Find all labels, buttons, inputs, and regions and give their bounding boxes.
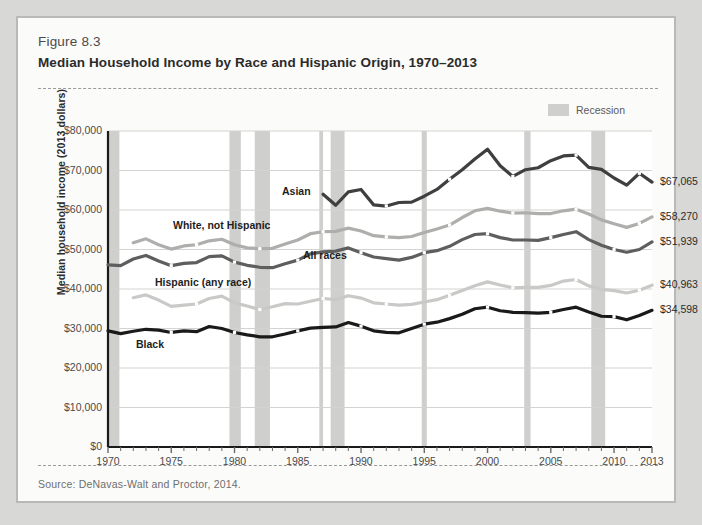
series-label-all-races: All races — [303, 249, 347, 261]
end-value-label: $34,598 — [660, 303, 698, 315]
chart-plot-area: Median household income (2013 dollars) $… — [18, 18, 678, 505]
series-label-white-not-hispanic: White, not Hispanic — [173, 219, 270, 231]
end-value-label: $58,270 — [660, 210, 698, 222]
end-value-label: $40,963 — [660, 278, 698, 290]
end-value-label: $67,065 — [660, 175, 698, 187]
y-tick-label: $70,000 — [46, 164, 102, 176]
y-tick-label: $20,000 — [46, 361, 102, 373]
y-tick-label: $80,000 — [46, 124, 102, 136]
series-label-hispanic-any-race: Hispanic (any race) — [155, 276, 251, 288]
y-tick-label: $30,000 — [46, 322, 102, 334]
figure-card: Figure 8.3 Median Household Income by Ra… — [16, 16, 676, 503]
y-axis-title: Median household income (2013 dollars) — [55, 77, 67, 307]
y-tick-label: $40,000 — [46, 282, 102, 294]
y-tick-label: $0 — [46, 440, 102, 452]
y-tick-label: $10,000 — [46, 401, 102, 413]
divider-bottom — [38, 465, 658, 466]
y-tick-label: $60,000 — [46, 203, 102, 215]
source-note: Source: DeNavas-Walt and Proctor, 2014. — [38, 478, 241, 490]
end-value-label: $51,939 — [660, 235, 698, 247]
series-label-black: Black — [136, 338, 164, 350]
line-chart — [18, 18, 678, 505]
series-label-asian: Asian — [282, 185, 311, 197]
y-tick-label: $50,000 — [46, 243, 102, 255]
